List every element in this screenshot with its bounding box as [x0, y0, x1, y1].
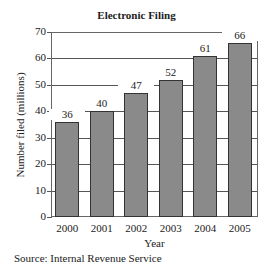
bar: [55, 122, 79, 217]
gridline: [52, 85, 257, 86]
bar-value-label: 66: [222, 30, 258, 41]
bar-value-label: 40: [84, 98, 120, 109]
chart-title: Electronic Filing: [0, 9, 273, 21]
y-tick-label: 30: [26, 132, 46, 143]
y-tick-label: 40: [26, 105, 46, 116]
y-tick-label: 10: [26, 185, 46, 196]
source-note: Source: Internal Revenue Service: [14, 252, 162, 264]
x-tick-label: 2004: [187, 222, 223, 234]
y-tick-label: 60: [26, 52, 46, 63]
bar-value-label: 36: [49, 109, 85, 120]
x-tick-label: 2001: [84, 222, 120, 234]
bar: [90, 111, 114, 217]
y-tick-label: 50: [26, 79, 46, 90]
y-tick-label: 0: [26, 211, 46, 222]
bar: [124, 93, 148, 217]
x-tick-label: 2002: [118, 222, 154, 234]
bar: [228, 43, 252, 217]
gridline: [52, 58, 257, 59]
bar-value-label: 47: [118, 80, 154, 91]
x-axis-label: Year: [51, 237, 258, 249]
x-tick-label: 2000: [49, 222, 85, 234]
bar: [159, 80, 183, 217]
gridline: [52, 164, 257, 165]
bar-value-label: 52: [153, 67, 189, 78]
y-tick-label: 20: [26, 158, 46, 169]
bar-value-label: 61: [187, 43, 223, 54]
y-axis-label: Number filed (millions): [14, 65, 26, 185]
x-tick-label: 2005: [222, 222, 258, 234]
x-tick-label: 2003: [153, 222, 189, 234]
y-tick-label: 70: [26, 26, 46, 37]
gridline: [52, 191, 257, 192]
y-tick-mark: [47, 217, 52, 218]
bar: [193, 56, 217, 217]
gridline: [52, 138, 257, 139]
